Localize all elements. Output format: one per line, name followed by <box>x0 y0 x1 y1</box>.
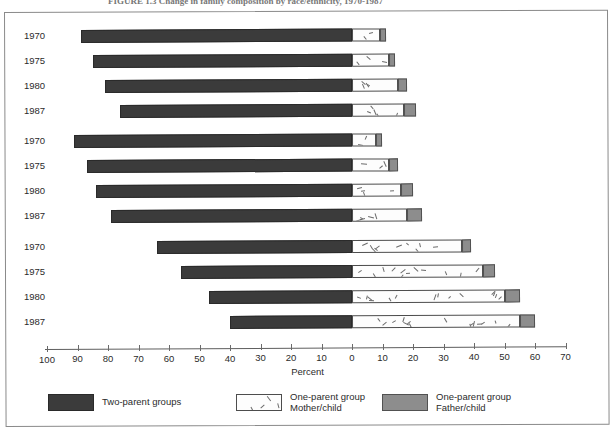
segment-mother-child[interactable] <box>352 104 404 117</box>
x-axis-tick <box>505 343 506 349</box>
year-label-group-1-1970: 1970 <box>24 30 70 41</box>
bar-row[interactable] <box>93 54 395 69</box>
segment-mother-child[interactable] <box>352 134 376 147</box>
legend-label-line2: Father/child <box>436 403 511 414</box>
x-axis-tick-label: 50 <box>185 353 215 364</box>
gray-solid-swatch <box>382 394 428 411</box>
x-axis-tick <box>47 346 48 352</box>
year-label-group-3-1980: 1980 <box>24 291 70 302</box>
x-axis-tick <box>474 343 475 349</box>
segment-mother-child[interactable] <box>352 29 380 42</box>
segment-mother-child[interactable] <box>352 289 505 303</box>
year-label-group-1-1980: 1980 <box>24 80 70 91</box>
legend-label-line1: One-parent group <box>290 392 365 403</box>
x-axis-tick <box>108 345 109 351</box>
x-axis-tick-label: 10 <box>307 352 337 363</box>
segment-father-child[interactable] <box>462 239 471 252</box>
bar-row[interactable] <box>81 29 386 44</box>
segment-father-child[interactable] <box>404 104 416 117</box>
segment-mother-child[interactable] <box>352 239 462 253</box>
bar-row[interactable] <box>181 264 495 279</box>
segment-mother-child[interactable] <box>352 159 389 172</box>
texture-speckles <box>353 290 504 302</box>
year-label-group-2-1980: 1980 <box>24 185 70 196</box>
legend-label-line1: Two-parent groups <box>102 397 181 408</box>
x-axis-tick-label: 60 <box>154 353 184 364</box>
year-label-group-3-1970: 1970 <box>24 241 70 252</box>
x-axis-tick <box>444 344 445 350</box>
segment-two-parent[interactable] <box>87 159 352 173</box>
year-label-group-1-1987: 1987 <box>24 105 70 116</box>
x-axis-line <box>45 346 567 350</box>
segment-father-child[interactable] <box>398 79 407 92</box>
bar-row[interactable] <box>74 134 382 149</box>
texture-speckles <box>237 395 281 410</box>
bar-row[interactable] <box>87 159 398 174</box>
segment-mother-child[interactable] <box>352 54 389 67</box>
bar-row[interactable] <box>209 289 520 304</box>
segment-two-parent[interactable] <box>230 315 352 329</box>
segment-mother-child[interactable] <box>352 264 483 278</box>
segment-two-parent[interactable] <box>74 134 352 148</box>
segment-two-parent[interactable] <box>181 265 352 279</box>
segment-father-child[interactable] <box>483 264 495 277</box>
x-axis-tick <box>291 344 292 350</box>
segment-two-parent[interactable] <box>209 290 352 304</box>
bar-row[interactable] <box>120 104 416 119</box>
legend-label-line1: One-parent group <box>436 392 511 403</box>
segment-mother-child[interactable] <box>352 209 407 222</box>
segment-two-parent[interactable] <box>81 29 353 43</box>
segment-two-parent[interactable] <box>96 184 352 198</box>
year-label-group-2-1987: 1987 <box>24 210 70 221</box>
segment-father-child[interactable] <box>389 54 395 67</box>
segment-mother-child[interactable] <box>352 314 520 328</box>
x-axis-tick <box>413 344 414 350</box>
x-axis-tick <box>352 344 353 350</box>
x-axis-tick <box>535 343 536 349</box>
segment-mother-child[interactable] <box>352 79 398 92</box>
x-axis-tick <box>383 344 384 350</box>
segment-father-child[interactable] <box>379 29 385 42</box>
x-axis-tick-label: 10 <box>368 352 398 363</box>
legend-label-mother_child: One-parent groupMother/child <box>290 392 365 413</box>
segment-two-parent[interactable] <box>157 240 352 254</box>
x-axis-title: Percent <box>0 366 615 377</box>
x-axis-tick-label: 70 <box>551 351 581 362</box>
year-label-group-2-1975: 1975 <box>24 160 70 171</box>
segment-father-child[interactable] <box>520 314 535 327</box>
segment-two-parent[interactable] <box>120 104 352 118</box>
x-axis-tick-label: 70 <box>124 353 154 364</box>
x-axis-tick-label: 100 <box>32 354 62 365</box>
x-axis-tick <box>230 345 231 351</box>
texture-speckles <box>353 265 482 277</box>
segment-two-parent[interactable] <box>105 79 352 93</box>
segment-two-parent[interactable] <box>93 54 352 68</box>
x-axis-tick-label: 80 <box>93 353 123 364</box>
x-axis-tick-label: 60 <box>520 351 550 362</box>
legend-label-two_parent: Two-parent groups <box>102 397 181 408</box>
segment-father-child[interactable] <box>504 289 519 302</box>
x-axis-tick <box>169 345 170 351</box>
bar-row[interactable] <box>111 209 422 224</box>
x-axis-tick <box>566 343 567 349</box>
texture-speckles <box>353 210 406 221</box>
x-axis-tick-label: 50 <box>490 351 520 362</box>
bar-row[interactable] <box>157 239 471 254</box>
segment-father-child[interactable] <box>407 209 422 222</box>
segment-father-child[interactable] <box>376 134 382 147</box>
texture-speckles <box>353 240 461 252</box>
bar-row[interactable] <box>105 79 407 94</box>
segment-mother-child[interactable] <box>352 184 401 197</box>
x-axis-tick-label: 30 <box>429 352 459 363</box>
x-axis-tick-label: 20 <box>276 352 306 363</box>
x-axis-tick <box>200 345 201 351</box>
segment-two-parent[interactable] <box>111 209 352 223</box>
x-axis-tick <box>78 345 79 351</box>
x-axis-tick-label: 40 <box>459 351 489 362</box>
segment-father-child[interactable] <box>401 184 413 197</box>
bar-row[interactable] <box>230 314 535 329</box>
x-axis-tick-label: 40 <box>215 353 245 364</box>
bar-row[interactable] <box>96 184 413 199</box>
segment-father-child[interactable] <box>389 159 398 172</box>
legend-label-line2: Mother/child <box>290 403 365 414</box>
